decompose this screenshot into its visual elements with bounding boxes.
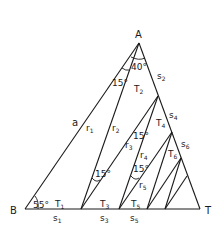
angle-15-3: 15° (133, 131, 149, 141)
angle-15-2: 15° (95, 169, 111, 179)
ray-r1: r1 (86, 123, 94, 134)
arc-a1 (122, 68, 129, 70)
side-AB (25, 43, 139, 209)
triangle-T6: T6 (167, 149, 178, 160)
triangle-T3: T3 (99, 199, 110, 210)
segment-s2: s2 (157, 71, 166, 82)
line-7 (147, 158, 181, 209)
triangle-T2: T2 (133, 84, 144, 95)
angle-apex: 40° (131, 62, 147, 72)
vertex-T: T (204, 205, 212, 216)
segment-s4: s4 (169, 110, 178, 121)
angle-base-left: 55° (33, 200, 49, 210)
segment-s1: s1 (53, 213, 62, 224)
triangle-diagram: A B T a 40° 15° 15° 15° 15° 55° r1 r2 r3… (0, 0, 221, 230)
line-9 (165, 176, 187, 209)
triangle-T5: T5 (130, 199, 141, 210)
vertex-A: A (135, 29, 142, 40)
segment-s3: s3 (100, 213, 109, 224)
segment-s6: s6 (181, 139, 190, 150)
ray-r4: r4 (140, 150, 148, 161)
angle-15-1: 15° (112, 78, 128, 88)
arc-a3 (131, 176, 139, 179)
angle-15-4: 15° (133, 164, 149, 174)
ray-r5: r5 (139, 180, 147, 191)
triangle-T1: T1 (54, 199, 65, 210)
ray-r2: r2 (112, 123, 120, 134)
segment-s5: s5 (130, 213, 139, 224)
vertex-B: B (10, 205, 17, 216)
line-r3 (81, 96, 158, 209)
triangle-T4: T4 (155, 118, 166, 129)
side-label-a: a (72, 117, 78, 128)
line-8 (165, 158, 181, 209)
ray-r3: r3 (125, 140, 133, 151)
